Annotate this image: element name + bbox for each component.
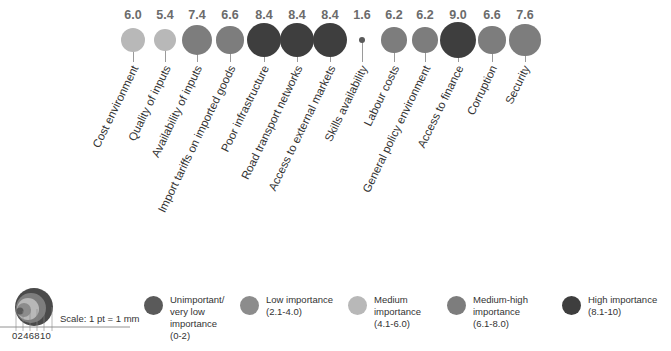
scale-circles-icon	[0, 285, 60, 333]
legend-swatch	[240, 296, 259, 315]
legend-label: Medium importance (4.1-6.0)	[374, 294, 421, 330]
bubble	[182, 25, 212, 55]
scale-label: Scale: 1 pt = 1 mm	[60, 313, 139, 324]
legend-swatch	[562, 296, 581, 315]
legend-item-medium-high: Medium-high importance (6.1-8.0)	[447, 294, 528, 330]
bubble	[121, 28, 146, 53]
legend-label: High importance (8.1-10)	[588, 294, 657, 318]
category-label: Road transport networks	[239, 63, 305, 181]
legend-item-unimportant: Unimportant/ very low importance (0-2)	[144, 294, 224, 342]
legend-swatch	[348, 296, 367, 315]
bubble	[509, 24, 540, 55]
legend-swatch	[447, 296, 466, 315]
legend-item-low: Low importance (2.1-4.0)	[240, 294, 333, 318]
legend-item-high: High importance (8.1-10)	[562, 294, 657, 318]
bubble	[280, 23, 314, 57]
legend-swatch	[144, 296, 163, 315]
bubble	[412, 27, 437, 52]
bubble	[216, 26, 243, 53]
category-label: Corruption	[465, 63, 499, 117]
stem-line	[362, 40, 363, 62]
bubble	[381, 27, 406, 52]
bubble	[247, 23, 281, 57]
scale-ticks: 0246810	[12, 330, 51, 341]
bubble	[440, 22, 477, 59]
legend-label: Medium-high importance (6.1-8.0)	[473, 294, 528, 330]
category-label: Security	[503, 63, 532, 106]
bubble	[313, 23, 347, 57]
bubble	[154, 29, 176, 51]
legend-label: Unimportant/ very low importance (0-2)	[170, 294, 224, 342]
legend-item-medium: Medium importance (4.1-6.0)	[348, 294, 421, 330]
bubble	[478, 26, 505, 53]
legend-label: Low importance (2.1-4.0)	[266, 294, 333, 318]
bubble	[359, 37, 366, 44]
value-label: 7.6	[505, 8, 545, 22]
